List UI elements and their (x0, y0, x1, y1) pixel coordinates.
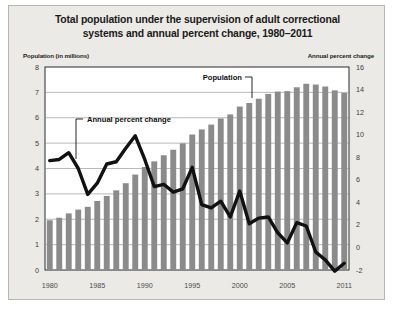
x-axis-tick-label: 1985 (89, 281, 105, 290)
y-axis-tick-label: 5 (35, 139, 39, 148)
y2-axis-tick-label: 4 (356, 198, 360, 207)
bar (180, 143, 186, 270)
bar (218, 119, 224, 270)
bar (75, 210, 81, 270)
bar (85, 207, 91, 270)
bar (170, 150, 176, 270)
x-axis-tick-label: 2011 (337, 281, 352, 290)
bar (66, 213, 72, 270)
bar (275, 92, 281, 270)
bar (123, 183, 129, 270)
bar (256, 99, 262, 270)
x-axis-tick-label: 2000 (232, 281, 248, 290)
x-axis-tick-label: 1995 (184, 281, 200, 290)
y2-axis-tick-label: 12 (356, 108, 364, 117)
bar (332, 90, 338, 270)
bar (47, 220, 53, 270)
bar (294, 87, 300, 270)
bar (189, 135, 195, 271)
y2-axis-tick-label: 10 (356, 130, 364, 139)
bar (322, 87, 328, 270)
bar (132, 175, 138, 270)
y2-axis-tick-label: 6 (356, 175, 360, 184)
bar (113, 190, 119, 270)
y-axis-tick-label: 8 (35, 63, 39, 72)
y2-axis-tick-label: 8 (356, 153, 360, 162)
y-axis-tick-label: 0 (35, 266, 39, 275)
bar (227, 114, 233, 270)
bar (104, 196, 110, 270)
figure-container: Total population under the supervision o… (8, 5, 385, 300)
bar (265, 94, 271, 270)
y-axis-tick-label: 2 (35, 215, 39, 224)
bar (237, 107, 243, 270)
chart-svg: 012345678-202468101214161980198519901995… (9, 6, 386, 301)
y-axis-tick-label: 1 (35, 240, 39, 249)
y2-axis-tick-label: 2 (356, 220, 360, 229)
bar (341, 93, 347, 270)
bar (303, 84, 309, 270)
y2-axis-tick-label: 14 (356, 85, 364, 94)
bar (56, 218, 62, 270)
bar (94, 201, 100, 270)
x-axis-tick-label: 1990 (137, 281, 153, 290)
x-axis-tick-label: 1980 (42, 281, 58, 290)
bar (246, 103, 252, 270)
bar (161, 155, 167, 270)
y-axis-tick-label: 3 (35, 189, 39, 198)
y-axis-tick-label: 6 (35, 113, 39, 122)
population-annotation-label: Population (203, 73, 243, 82)
bar (142, 167, 148, 270)
plot-area: 012345678-202468101214161980198519901995… (9, 6, 386, 301)
y2-axis-tick-label: 0 (356, 243, 360, 252)
y-axis-tick-label: 7 (35, 88, 39, 97)
y-axis-tick-label: 4 (35, 164, 39, 173)
x-axis-tick-label: 2005 (279, 281, 295, 290)
annual-percent-change-annotation-label: Annual percent change (87, 115, 171, 124)
y2-axis-tick-label: -2 (356, 266, 362, 275)
bar (208, 125, 214, 270)
y2-axis-tick-label: 16 (356, 63, 364, 72)
